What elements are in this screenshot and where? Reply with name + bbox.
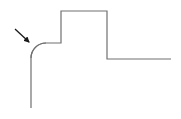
profile-outline <box>31 11 171 108</box>
step-profile-diagram <box>0 0 181 119</box>
fillet-pointer-arrow <box>15 29 29 42</box>
fillet-corner <box>31 43 46 58</box>
